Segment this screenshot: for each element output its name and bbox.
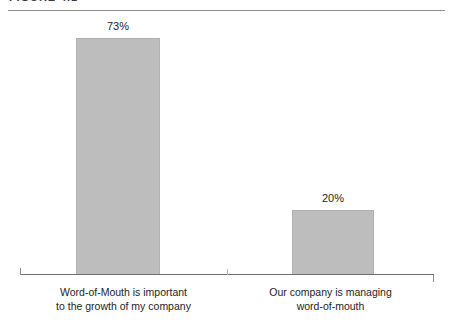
x-axis-tick-middle	[227, 269, 228, 275]
chart-plot-area: 73% 20% Word-of-Mouth is important to th…	[0, 0, 454, 330]
bar-value-label: 73%	[76, 20, 160, 32]
bar-company-managing-word-of-mouth	[292, 210, 374, 275]
category-label-line: to the growth of my company	[20, 299, 227, 313]
bar-value-label: 20%	[292, 192, 374, 204]
x-axis-category-label: Our company is managing word-of-mouth	[227, 285, 434, 313]
x-axis-category-label: Word-of-Mouth is important to the growth…	[20, 285, 227, 313]
category-label-line: word-of-mouth	[227, 299, 434, 313]
x-axis-tick-left	[20, 268, 21, 275]
figure-container: FIGURE 4.1 73% 20% Word-of-Mouth is impo…	[0, 0, 454, 330]
category-label-line: Our company is managing	[227, 285, 434, 299]
x-axis-tick-right	[433, 275, 434, 282]
bar-word-of-mouth-important	[76, 38, 160, 275]
category-label-line: Word-of-Mouth is important	[20, 285, 227, 299]
